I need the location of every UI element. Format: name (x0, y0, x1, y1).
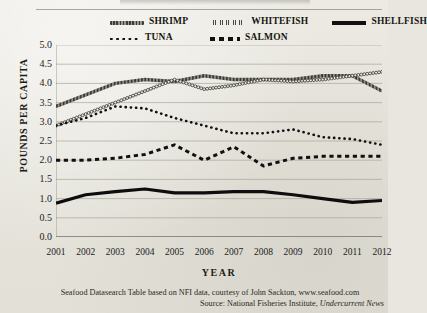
series-shrimp (56, 76, 382, 107)
legend-item-whitefish: WHITEFISH (212, 16, 308, 27)
legend-item-shellfish: SHELLFISH (332, 16, 427, 27)
series-shellfish (56, 189, 382, 203)
y-tick-label: 3.5 (28, 98, 52, 108)
series-marker (206, 87, 209, 90)
legend-label-shrimp: SHRIMP (149, 16, 188, 27)
series-marker (250, 80, 253, 83)
series-marker (226, 85, 229, 88)
series-marker (244, 82, 247, 85)
series-marker (324, 78, 327, 81)
series-marker (298, 80, 301, 83)
series-marker (93, 109, 96, 112)
x-tick-label: 2002 (76, 247, 95, 257)
x-tick-label: 2009 (284, 247, 303, 257)
chart-svg (56, 45, 382, 237)
series-marker (99, 107, 102, 110)
x-tick-label: 2012 (373, 247, 392, 257)
series-marker (318, 78, 321, 81)
series-marker (117, 100, 120, 103)
x-tick-label: 2003 (106, 247, 125, 257)
series-marker (141, 91, 144, 94)
series-marker (315, 78, 318, 81)
series-marker (381, 70, 382, 73)
y-tick-label: 0.5 (28, 213, 52, 223)
legend-row-2: TUNA SALMON (110, 30, 382, 44)
series-line (56, 189, 382, 203)
series-marker (179, 80, 182, 83)
chart-legend: SHRIMP WHITEFISH SHELLFISH TUNA SALMON (110, 14, 382, 44)
series-marker (330, 77, 333, 80)
y-axis-label: POUNDS PER CAPITA (18, 41, 29, 191)
series-marker (295, 80, 298, 83)
series-marker (194, 85, 197, 88)
series-marker (247, 81, 250, 84)
series-tuna (56, 106, 382, 144)
header-rule (36, 9, 382, 10)
series-marker (81, 114, 84, 117)
series-marker (235, 83, 238, 86)
series-line (56, 145, 382, 166)
series-marker (188, 83, 191, 86)
series-marker (372, 72, 375, 75)
series-marker (271, 79, 274, 82)
series-marker (158, 84, 161, 87)
series-marker (369, 72, 372, 75)
legend-label-tuna: TUNA (145, 32, 173, 43)
chart-footer: Seafood Datasearch Table based on NFI da… (34, 287, 386, 309)
series-marker (126, 97, 129, 100)
series-marker (274, 79, 277, 82)
series-marker (84, 113, 87, 116)
series-marker (143, 90, 146, 93)
series-marker (354, 74, 357, 77)
legend-item-shrimp: SHRIMP (110, 16, 188, 27)
series-marker (259, 79, 262, 82)
series-marker (164, 82, 167, 85)
series-marker (72, 117, 75, 120)
y-tick-label: 0.0 (28, 232, 52, 242)
series-marker (339, 76, 342, 79)
series-marker (256, 79, 259, 82)
series-marker (304, 79, 307, 82)
legend-row-1: SHRIMP WHITEFISH SHELLFISH (110, 14, 382, 28)
series-marker (286, 80, 289, 83)
series-marker (170, 79, 173, 82)
x-tick-label: 2010 (313, 247, 332, 257)
chart-plot-area (56, 45, 382, 237)
series-marker (306, 79, 309, 82)
series-marker (348, 75, 351, 78)
series-marker (253, 80, 256, 83)
series-marker (111, 102, 114, 105)
series-marker (197, 86, 200, 89)
y-tick-label: 3.0 (28, 117, 52, 127)
legend-label-shellfish: SHELLFISH (371, 16, 427, 27)
series-marker (78, 115, 81, 118)
series-marker (105, 105, 108, 108)
series-marker (218, 86, 221, 89)
series-marker (357, 74, 360, 77)
series-marker (167, 80, 170, 83)
series-marker (301, 79, 304, 82)
series-marker (336, 76, 339, 79)
series-marker (96, 108, 99, 111)
y-tick-label: 2.5 (28, 136, 52, 146)
shrimp-line-swatch-icon (110, 21, 144, 25)
x-tick-label: 2007 (224, 247, 243, 257)
series-marker (138, 92, 141, 95)
series-marker (241, 82, 244, 85)
series-marker (289, 80, 292, 83)
series-line (56, 72, 382, 126)
legend-label-salmon: SALMON (245, 32, 288, 43)
series-marker (212, 87, 215, 90)
legend-item-tuna: TUNA (110, 32, 196, 43)
series-marker (342, 75, 345, 78)
series-marker (223, 85, 226, 88)
series-layer (56, 70, 382, 203)
y-tick-label: 1.0 (28, 194, 52, 204)
series-marker (173, 78, 176, 81)
series-marker (146, 88, 149, 91)
series-marker (268, 78, 271, 81)
footer-credit-line: Seafood Datasearch Table based on NFI da… (34, 287, 386, 298)
series-marker (321, 78, 324, 81)
series-marker (129, 95, 132, 98)
series-marker (327, 77, 330, 80)
